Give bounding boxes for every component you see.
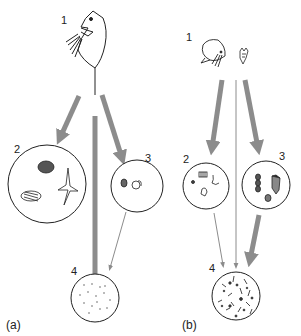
- panel-b: 1 2 3: [182, 31, 290, 332]
- node-label-a4: 4: [71, 265, 77, 277]
- food-web-diagram: 1 2 3: [0, 0, 301, 336]
- node-b3-circle: [242, 161, 290, 209]
- node-label-b4: 4: [209, 262, 215, 274]
- node-b4-circle: [212, 272, 260, 320]
- node-label-b3: 3: [279, 150, 285, 162]
- panel-a: 1 2 3: [6, 11, 163, 332]
- node-label-b2: 2: [183, 153, 189, 165]
- panel-label-b: (b): [182, 318, 197, 332]
- node-a4-circle: [71, 274, 119, 322]
- zooplankton-small-icon: [201, 40, 225, 67]
- zooplankton-large-icon: [66, 11, 106, 95]
- panel-label-a: (a): [6, 318, 21, 332]
- node-label-b1: 1: [186, 31, 192, 43]
- node-a3-circle: [111, 160, 163, 212]
- rotifer-icon: [240, 48, 248, 64]
- node-label-a2: 2: [14, 143, 20, 155]
- node-a2-circle: [8, 145, 86, 223]
- node-b2-circle: [183, 163, 229, 209]
- node-label-a1: 1: [61, 14, 67, 26]
